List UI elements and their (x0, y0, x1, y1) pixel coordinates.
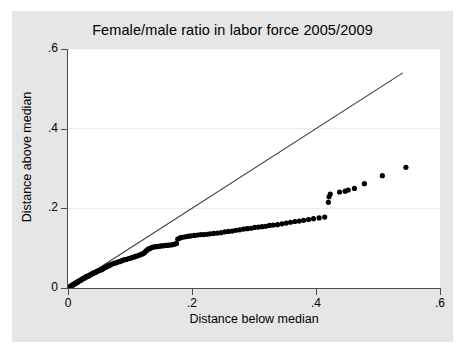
x-tick-label: .2 (177, 296, 207, 310)
data-point (337, 189, 342, 194)
data-point (297, 218, 302, 223)
plot-area (68, 49, 440, 288)
data-point (352, 186, 357, 191)
x-tick-label: .6 (425, 296, 455, 310)
data-point (326, 200, 331, 205)
data-point (317, 215, 322, 220)
x-axis-line (67, 288, 441, 289)
data-point (284, 220, 289, 225)
x-tick-mark (440, 289, 441, 295)
data-point (328, 191, 333, 196)
y-tick-label: .2 (32, 200, 58, 214)
data-point (362, 181, 367, 186)
data-point (306, 217, 311, 222)
x-tick-mark (192, 289, 193, 295)
data-point (380, 173, 385, 178)
gridlines-group (68, 49, 440, 208)
data-point (275, 222, 280, 227)
y-axis-line (67, 49, 68, 289)
y-tick-mark (61, 288, 67, 289)
y-tick-mark (61, 208, 67, 209)
chart-title: Female/male ratio in labor force 2005/20… (12, 22, 453, 38)
y-tick-mark (61, 49, 67, 50)
data-point (311, 216, 316, 221)
data-point (288, 220, 293, 225)
y-tick-label: 0 (32, 280, 58, 294)
x-tick-mark (68, 289, 69, 295)
scatter-plot-svg (68, 49, 440, 288)
y-tick-mark (61, 129, 67, 130)
y-axis-title: Distance above median (20, 67, 34, 247)
data-point (346, 187, 351, 192)
data-point (301, 218, 306, 223)
y-tick-label: .4 (32, 121, 58, 135)
reference-line (68, 73, 403, 288)
data-point (322, 214, 327, 219)
chart-container: Female/male ratio in labor force 2005/20… (0, 0, 463, 352)
data-point (279, 221, 284, 226)
data-point (174, 241, 179, 246)
x-tick-label: 0 (53, 296, 83, 310)
x-axis-title: Distance below median (68, 312, 440, 326)
x-tick-label: .4 (301, 296, 331, 310)
x-tick-mark (316, 289, 317, 295)
y-tick-label: .6 (32, 41, 58, 55)
data-point (403, 165, 408, 170)
data-points-group (68, 165, 408, 288)
